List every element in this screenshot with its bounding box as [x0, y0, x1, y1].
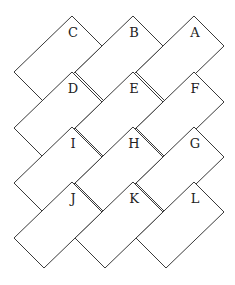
tile-label: A — [189, 25, 200, 40]
tile-label: J — [68, 191, 75, 206]
tile-label: K — [129, 191, 139, 206]
tile-diagram: ABCFEDGHILKJ — [0, 0, 235, 285]
tile-label: B — [129, 25, 139, 40]
tile-label: I — [70, 136, 75, 151]
tile-label: G — [190, 136, 200, 151]
tile-label: H — [128, 136, 139, 151]
tile-group: ABCFEDGHILKJ — [14, 16, 224, 268]
tile-label: D — [68, 81, 78, 96]
tile-label: F — [190, 81, 199, 96]
tile-label: C — [68, 25, 78, 40]
tile-label: E — [129, 81, 139, 96]
tile-label: L — [191, 191, 200, 206]
